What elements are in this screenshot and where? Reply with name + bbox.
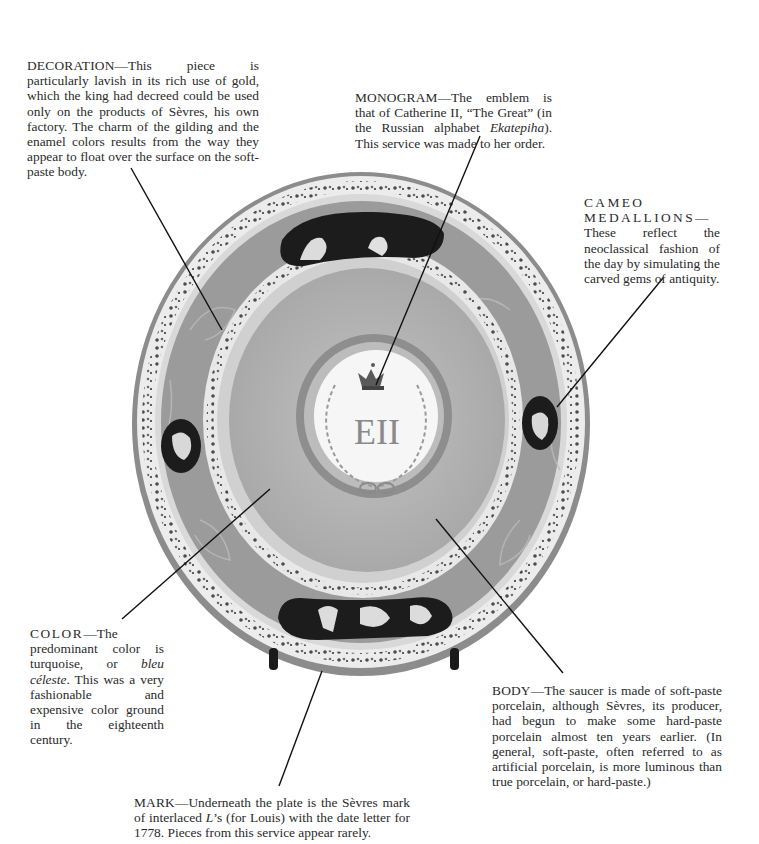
caption-decoration-text: —This piece is particularly lavish in it… <box>27 58 259 179</box>
leader-line-mark <box>279 671 322 786</box>
caption-cameo-medallions: CAMEO MEDALLIONS—These reflect the neocl… <box>584 195 720 286</box>
cameo-medallion-right <box>522 396 558 450</box>
monogram-glyph: ЕII <box>354 412 400 452</box>
caption-cameo-lead: CAMEO MEDALLIONS <box>584 195 695 225</box>
caption-decoration: DECORATION—This piece is particularly la… <box>27 58 259 180</box>
caption-body-lead: BODY <box>492 683 531 698</box>
caption-body-text: —The saucer is made of soft-paste porcel… <box>492 683 722 789</box>
caption-color: COLOR—The predominant color is turquoise… <box>30 626 164 748</box>
caption-color-lead: COLOR <box>30 626 83 641</box>
caption-body: BODY—The saucer is made of soft-paste po… <box>492 683 722 789</box>
caption-monogram: MONOGRAM—The emblem is that of Catherine… <box>355 90 552 151</box>
caption-monogram-italic: Ekatepiha <box>490 120 544 135</box>
cameo-medallion-bottom <box>278 597 453 640</box>
cameo-medallion-left <box>161 419 201 473</box>
caption-decoration-lead: DECORATION <box>27 58 115 73</box>
caption-mark: MARK—Underneath the plate is the Sèvres … <box>134 795 410 841</box>
caption-mark-lead: MARK <box>134 795 175 810</box>
caption-monogram-lead: MONOGRAM <box>355 90 438 105</box>
